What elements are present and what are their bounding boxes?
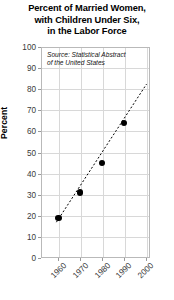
chart-figure: Percent of Married Women, with Children … bbox=[0, 0, 174, 300]
gridline-y-70 bbox=[42, 110, 149, 111]
y-tick-label-40: 40 bbox=[0, 169, 36, 178]
gridline-y-60 bbox=[42, 131, 149, 132]
x-tick-mark-1980 bbox=[102, 258, 103, 261]
y-tick-label-10: 10 bbox=[0, 232, 36, 241]
gridline-x-1990 bbox=[125, 48, 126, 257]
source-annotation: Source: Statistical Abstract of the Unit… bbox=[47, 51, 151, 68]
gridline-y-90 bbox=[42, 68, 149, 69]
plot-area: Source: Statistical Abstract of the Unit… bbox=[41, 47, 150, 258]
gridline-y-40 bbox=[42, 174, 149, 175]
chart-title-line-2: with Children Under Six, bbox=[6, 15, 168, 27]
chart-title-line-3: in the Labor Force bbox=[6, 26, 168, 38]
gridline-x-1970 bbox=[81, 48, 82, 257]
y-tick-label-50: 50 bbox=[0, 148, 36, 157]
x-tick-mark-1990 bbox=[124, 258, 125, 261]
source-annotation-line-1: Source: Statistical Abstract bbox=[47, 51, 151, 59]
gridline-y-50 bbox=[42, 153, 149, 154]
x-tick-mark-2000 bbox=[146, 258, 147, 261]
y-tick-label-30: 30 bbox=[0, 190, 36, 199]
y-tick-mark-0 bbox=[38, 258, 41, 259]
gridline-y-80 bbox=[42, 89, 149, 90]
gridline-y-30 bbox=[42, 195, 149, 196]
gridline-y-20 bbox=[42, 216, 149, 217]
y-tick-label-60: 60 bbox=[0, 127, 36, 136]
y-tick-label-70: 70 bbox=[0, 106, 36, 115]
gridline-x-1960 bbox=[59, 48, 60, 257]
source-annotation-line-2: of the United States bbox=[47, 59, 151, 67]
gridline-y-10 bbox=[42, 237, 149, 238]
chart-title-line-1: Percent of Married Women, bbox=[6, 3, 168, 15]
y-tick-label-20: 20 bbox=[0, 211, 36, 220]
chart-title: Percent of Married Women, with Children … bbox=[6, 3, 168, 38]
y-tick-label-80: 80 bbox=[0, 85, 36, 94]
y-tick-label-100: 100 bbox=[0, 43, 36, 52]
y-tick-label-0: 0 bbox=[0, 254, 36, 263]
gridline-x-2000 bbox=[147, 48, 148, 257]
x-tick-mark-1970 bbox=[80, 258, 81, 261]
x-tick-mark-1960 bbox=[58, 258, 59, 261]
gridline-x-1980 bbox=[103, 48, 104, 257]
y-tick-label-90: 90 bbox=[0, 64, 36, 73]
